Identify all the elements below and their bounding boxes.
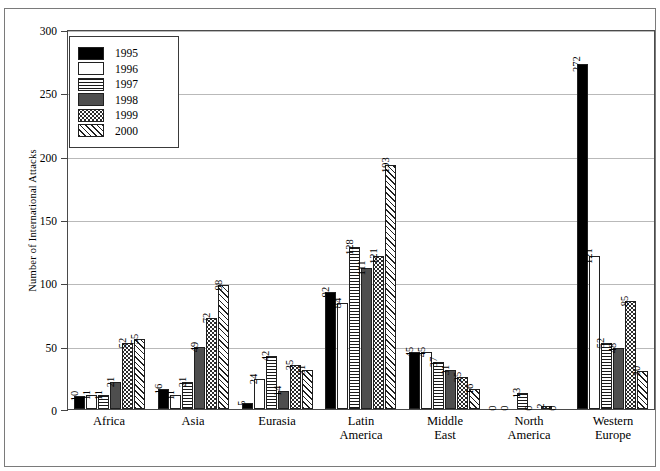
bar-slot: 72 <box>206 31 217 409</box>
bar-value-label: 11 <box>93 390 104 400</box>
bar-chart-figure: Number of International Attacks 05010015… <box>0 0 660 471</box>
chart-legend: 199519961997199819992000 <box>69 36 179 148</box>
bar-value-label: 31 <box>440 364 451 375</box>
bar-value-label: 14 <box>272 386 283 397</box>
bar-slot: 25 <box>457 31 468 409</box>
legend-swatch <box>78 93 104 106</box>
bar-value-label: 121 <box>368 248 379 264</box>
y-axis-tick <box>61 348 68 349</box>
bar-group: 9284128111121193 <box>325 31 396 409</box>
y-axis-tick <box>61 158 68 159</box>
y-axis-tick <box>61 221 68 222</box>
bar-slot: 31 <box>302 31 313 409</box>
bar: 14 <box>278 391 289 409</box>
legend-swatch <box>78 78 104 91</box>
x-axis-category-label: LatinAmerica <box>319 414 403 442</box>
bar-value-label: 45 <box>416 347 427 358</box>
bar: 92 <box>325 292 336 409</box>
bar-slot: 13 <box>517 31 528 409</box>
bar-value-label: 2 <box>535 404 546 409</box>
y-axis-tick <box>61 410 68 411</box>
bar-slot: 21 <box>182 31 193 409</box>
bar-value-label: 5 <box>236 400 247 405</box>
legend-item-1999: 1999 <box>78 109 172 122</box>
bar-slot: 0 <box>553 31 564 409</box>
bar-slot: 85 <box>625 31 636 409</box>
bar-slot: 92 <box>325 31 336 409</box>
bar: 45 <box>409 352 420 409</box>
legend-swatch <box>78 62 104 75</box>
legend-swatch <box>78 47 104 60</box>
bar-slot: 193 <box>385 31 396 409</box>
x-axis-category-labels: AfricaAsiaEurasiaLatinAmericaMiddleEastN… <box>67 414 655 442</box>
y-axis-tick-label: 50 <box>46 342 58 354</box>
bar-value-label: 16 <box>464 383 475 394</box>
y-axis-tick-label: 100 <box>40 278 57 290</box>
bar-value-label: 11 <box>81 390 92 400</box>
bar: 55 <box>134 339 145 409</box>
bar: 42 <box>266 356 277 409</box>
bar-value-label: 24 <box>248 373 259 384</box>
bar: 16 <box>469 389 480 409</box>
bar-slot: 121 <box>589 31 600 409</box>
bar-value-label: 84 <box>332 297 343 308</box>
y-axis-tick <box>61 284 68 285</box>
bar: 30 <box>637 371 648 409</box>
bar-slot: 49 <box>194 31 205 409</box>
y-axis-tick <box>61 31 68 32</box>
bar: 121 <box>589 256 600 409</box>
bar: 31 <box>302 370 313 409</box>
legend-item-1995: 1995 <box>78 47 172 60</box>
bar-value-label: 92 <box>320 287 331 298</box>
legend-label: 2000 <box>115 125 138 137</box>
x-axis-category-label: Eurasia <box>235 414 319 442</box>
bar-value-label: 121 <box>583 248 594 264</box>
bar-slot: 42 <box>266 31 277 409</box>
bar-value-label: 31 <box>296 364 307 375</box>
x-axis-category-label: WesternEurope <box>571 414 655 442</box>
legend-label: 1998 <box>115 94 138 106</box>
legend-item-1998: 1998 <box>78 93 172 106</box>
bar-value-label: 272 <box>571 57 582 73</box>
bar: 111 <box>361 268 372 409</box>
bar-group: 52442143531 <box>242 31 313 409</box>
bar-value-label: 193 <box>380 157 391 173</box>
bar-slot: 48 <box>613 31 624 409</box>
bar-slot: 37 <box>433 31 444 409</box>
x-axis-category-label: Asia <box>151 414 235 442</box>
bar-value-label: 0 <box>547 405 558 410</box>
y-axis-tick <box>61 94 68 95</box>
bar: 85 <box>625 301 636 409</box>
bar-slot: 121 <box>373 31 384 409</box>
y-axis-tick-label: 200 <box>40 152 57 164</box>
bar-slot: 30 <box>637 31 648 409</box>
y-axis-tick-label: 0 <box>51 405 57 417</box>
bar: 84 <box>337 303 348 409</box>
bar-slot: 0 <box>505 31 516 409</box>
bar-slot: 14 <box>278 31 289 409</box>
bar-value-label: 55 <box>129 334 140 345</box>
bar-value-label: 0 <box>523 405 534 410</box>
bar-value-label: 0 <box>499 405 510 410</box>
legend-label: 1999 <box>115 109 138 121</box>
bar: 52 <box>122 343 133 409</box>
bar: 98 <box>218 285 229 409</box>
bar: 193 <box>385 165 396 409</box>
bar-group: 454537312516 <box>409 31 480 409</box>
top-caption <box>0 0 660 7</box>
bar-value-label: 98 <box>213 280 224 291</box>
bar-slot: 5 <box>242 31 253 409</box>
bar: 72 <box>206 318 217 409</box>
bar: 24 <box>254 379 265 409</box>
bar-value-label: 0 <box>487 405 498 410</box>
legend-label: 1997 <box>115 78 138 90</box>
bar-slot: 2 <box>541 31 552 409</box>
bar: 21 <box>110 382 121 409</box>
bar-value-label: 25 <box>452 372 463 383</box>
y-axis-label: Number of International Attacks <box>27 121 38 321</box>
x-axis-category-label: NorthAmerica <box>487 414 571 442</box>
bar-value-label: 72 <box>201 313 212 324</box>
bar-value-label: 30 <box>631 366 642 377</box>
bar-value-label: 52 <box>117 338 128 349</box>
bar-slot: 84 <box>337 31 348 409</box>
